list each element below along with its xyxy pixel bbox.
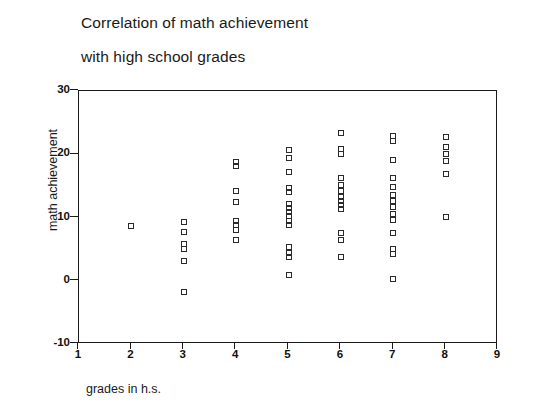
y-axis-tick-label: 10 (30, 210, 70, 222)
scatter-point (390, 184, 396, 190)
scatter-point (390, 276, 396, 282)
scatter-point (338, 230, 344, 236)
y-axis-tick-label: 30 (30, 83, 70, 95)
scatter-point (390, 157, 396, 163)
scatter-point (443, 158, 449, 164)
x-axis-tick-label: 1 (63, 348, 93, 360)
scatter-point (233, 227, 239, 233)
scatter-point (286, 272, 292, 278)
scatter-point (390, 198, 396, 204)
scatter-point (338, 175, 344, 181)
x-axis-tick-label: 4 (220, 348, 250, 360)
scatter-point (338, 206, 344, 212)
scatter-point (443, 144, 449, 150)
chart-title: Correlation of math achievement with hig… (81, 6, 501, 74)
scatter-point (390, 175, 396, 181)
scatter-point (443, 134, 449, 140)
scatter-point (233, 237, 239, 243)
scatter-point (443, 214, 449, 220)
scatter-point (443, 151, 449, 157)
y-axis-tick (70, 153, 78, 154)
scatter-point (390, 211, 396, 217)
chart-title-line-2: with high school grades (81, 40, 501, 74)
scatter-point (338, 130, 344, 136)
chart-title-line-1: Correlation of math achievement (81, 6, 501, 40)
plot-area (78, 90, 497, 343)
scatter-point (390, 204, 396, 210)
scatter-point (233, 163, 239, 169)
scatter-point (443, 171, 449, 177)
scatter-point (233, 199, 239, 205)
y-axis-tick (70, 216, 78, 217)
y-axis-title-wrapper: math achievement (43, 105, 63, 255)
scatter-point (338, 151, 344, 157)
x-axis-tick-label: 8 (430, 348, 460, 360)
x-axis-tick-label: 2 (115, 348, 145, 360)
scatter-points-layer (79, 91, 496, 342)
scatter-point (390, 251, 396, 257)
y-axis-tick-label: -10 (30, 336, 70, 348)
scatter-point (286, 147, 292, 153)
x-axis-tick-label: 3 (168, 348, 198, 360)
scatter-point (338, 237, 344, 243)
y-axis-tick (70, 89, 78, 90)
scatter-point (128, 223, 134, 229)
scatter-point (286, 254, 292, 260)
y-axis-tick (70, 279, 78, 280)
scatter-point (181, 246, 187, 252)
x-axis-tick-label: 6 (325, 348, 355, 360)
scatter-point (390, 138, 396, 144)
x-axis-title: grades in h.s. (86, 382, 161, 396)
scatter-point (286, 222, 292, 228)
chart-figure: Correlation of math achievement with hig… (0, 0, 551, 420)
scatter-point (181, 289, 187, 295)
x-axis-tick-label: 9 (482, 348, 512, 360)
scatter-point (338, 254, 344, 260)
x-axis-tick-label: 5 (273, 348, 303, 360)
scatter-point (286, 155, 292, 161)
x-axis-tick-label: 7 (377, 348, 407, 360)
scatter-point (181, 219, 187, 225)
scatter-point (181, 229, 187, 235)
scatter-point (390, 217, 396, 223)
scatter-point (286, 189, 292, 195)
y-axis-tick-label: 20 (30, 146, 70, 158)
scatter-point (390, 192, 396, 198)
y-axis-tick-label: 0 (30, 273, 70, 285)
scatter-point (390, 230, 396, 236)
scatter-point (181, 258, 187, 264)
scatter-point (233, 188, 239, 194)
scatter-point (338, 182, 344, 188)
scatter-point (286, 169, 292, 175)
